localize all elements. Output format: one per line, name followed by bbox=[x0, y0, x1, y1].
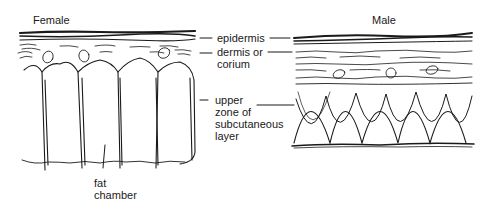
male-subcutaneous-lattice bbox=[292, 92, 474, 148]
male-epidermis bbox=[294, 33, 472, 44]
label-dermis-line2: corium bbox=[217, 58, 250, 70]
fat-chamber-leader-line bbox=[103, 145, 105, 168]
female-fat-chambers bbox=[22, 58, 195, 170]
label-upper-line4: layer bbox=[215, 130, 239, 142]
male-dermis bbox=[296, 50, 472, 84]
skin-cross-section-diagram bbox=[0, 0, 488, 206]
label-epidermis: epidermis bbox=[217, 32, 265, 44]
label-dermis-line1: dermis or bbox=[217, 46, 263, 58]
label-fat-line1: fat bbox=[94, 177, 106, 189]
male-panel-title: Male bbox=[372, 14, 396, 26]
female-epidermis bbox=[20, 31, 195, 41]
label-fat-line2: chamber bbox=[94, 189, 137, 201]
label-upper-line2: zone of bbox=[215, 106, 251, 118]
label-upper-line1: upper bbox=[215, 94, 243, 106]
label-upper-line3: subcutaneous bbox=[215, 118, 284, 130]
female-panel-title: Female bbox=[33, 14, 70, 26]
